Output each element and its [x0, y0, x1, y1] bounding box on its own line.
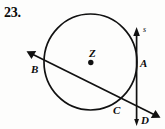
center-point-Z — [88, 60, 93, 65]
point-label-z: Z — [89, 48, 96, 59]
point-label-d: D — [141, 115, 149, 126]
point-label-a: A — [140, 58, 147, 69]
geometry-figure: 23. B Z A C D s — [0, 0, 165, 129]
tangent-line-down-arrowhead — [134, 119, 139, 126]
point-label-b: B — [31, 64, 38, 75]
tangent-line-up-arrowhead — [133, 27, 140, 36]
point-label-c: C — [113, 105, 120, 116]
line-label-s: s — [143, 26, 146, 34]
